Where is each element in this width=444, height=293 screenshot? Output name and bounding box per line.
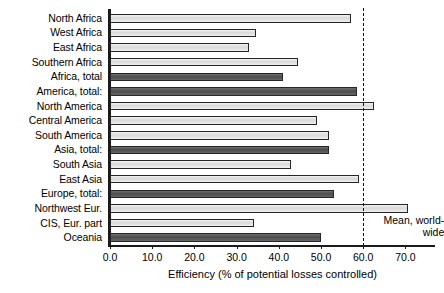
bar-row (110, 99, 435, 114)
x-tick-mark (152, 245, 153, 249)
category-label: North Africa (0, 11, 106, 26)
bar (110, 116, 317, 125)
x-tick-label: 20.0 (184, 251, 204, 263)
bar-row (110, 11, 435, 26)
bar (110, 102, 374, 111)
category-label: Oceania (0, 230, 106, 245)
bar-row (110, 187, 435, 202)
x-tick-mark (405, 245, 406, 249)
category-label: Africa, total (0, 70, 106, 85)
x-axis-line (108, 245, 435, 247)
x-tick-mark (279, 245, 280, 249)
x-tick-label: 10.0 (142, 251, 162, 263)
bar (110, 43, 249, 52)
category-label: Asia, total: (0, 143, 106, 158)
bar (110, 233, 321, 242)
mean-annotation-line2: wide (423, 226, 444, 238)
category-label: East Africa (0, 40, 106, 55)
category-label: East Asia (0, 172, 106, 187)
x-tick-mark (321, 245, 322, 249)
bar (110, 175, 359, 184)
category-label: Europe, total: (0, 187, 106, 202)
bar-series (110, 11, 435, 245)
bar-row (110, 157, 435, 172)
bar (110, 73, 283, 82)
x-tick-mark (110, 245, 111, 249)
bar-row (110, 172, 435, 187)
category-axis-labels: North AfricaWest AfricaEast AfricaSouthe… (0, 11, 106, 245)
category-label: South Asia (0, 157, 106, 172)
category-label: West Africa (0, 26, 106, 41)
x-axis-title: Efficiency (% of potential losses contro… (110, 268, 435, 280)
mean-worldwide-annotation: Mean, world- wide (366, 214, 444, 238)
category-label: South America (0, 128, 106, 143)
category-label: North America (0, 99, 106, 114)
bar (110, 14, 351, 23)
category-label: America, total: (0, 84, 106, 99)
bar (110, 146, 329, 155)
bar (110, 131, 329, 140)
bar-row (110, 70, 435, 85)
bar (110, 160, 291, 169)
mean-annotation-line1: Mean, world- (384, 214, 444, 226)
bar (110, 58, 298, 67)
category-label: Central America (0, 113, 106, 128)
x-tick-label: 70.0 (395, 251, 415, 263)
bar-row (110, 55, 435, 70)
bar (110, 190, 334, 199)
x-tick-label: 30.0 (226, 251, 246, 263)
x-tick-label: 50.0 (311, 251, 331, 263)
x-tick-mark (194, 245, 195, 249)
bar-row (110, 113, 435, 128)
bar-row (110, 40, 435, 55)
bar (110, 29, 256, 38)
plot-area: 0.010.020.030.040.050.060.070.0 Mean, wo… (110, 11, 435, 245)
x-tick-label: 40.0 (269, 251, 289, 263)
x-tick-label: 0.0 (103, 251, 118, 263)
bar-row (110, 84, 435, 99)
category-label: CIS, Eur. part (0, 216, 106, 231)
bar (110, 87, 357, 96)
bar (110, 219, 254, 228)
category-label: Southern Africa (0, 55, 106, 70)
mean-worldwide-reference-line (363, 8, 364, 246)
x-tick-mark (363, 245, 364, 249)
category-label: Northwest Eur. (0, 201, 106, 216)
x-tick-mark (237, 245, 238, 249)
x-tick-label: 60.0 (353, 251, 373, 263)
bar-row (110, 143, 435, 158)
bar-row (110, 128, 435, 143)
bar-row (110, 26, 435, 41)
